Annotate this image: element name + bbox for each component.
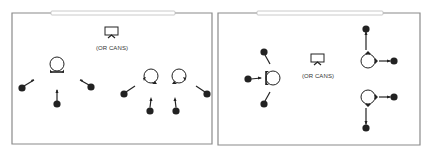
av-label: (OR CANS) — [96, 45, 128, 51]
speaker-circle — [361, 90, 375, 104]
listener — [146, 97, 153, 115]
listener — [244, 75, 262, 82]
listener — [120, 86, 135, 98]
speaker-group — [172, 69, 211, 115]
listener — [362, 25, 369, 50]
speaker-circle — [144, 69, 158, 83]
left-room-panel: (OR CANS) — [12, 11, 212, 144]
listener — [260, 48, 270, 64]
seating-diagram: (OR CANS) — [0, 0, 430, 153]
speaker-circle — [50, 57, 64, 71]
speaker-circle — [361, 54, 375, 68]
listener — [196, 86, 211, 98]
projector-icon — [105, 27, 118, 38]
speaker-group — [120, 69, 158, 115]
listener — [172, 97, 179, 115]
listener — [379, 57, 398, 64]
whiteboard — [257, 11, 383, 15]
right-room-panel: (OR CANS) — [218, 11, 420, 145]
speaker-group — [361, 25, 398, 68]
speaker-group — [244, 48, 280, 107]
listener — [260, 92, 270, 108]
speaker-group — [18, 57, 94, 108]
projector-icon — [311, 54, 324, 65]
listener — [53, 89, 60, 108]
listener — [80, 79, 95, 91]
speaker-circle — [172, 69, 186, 83]
av-label: (OR CANS) — [302, 73, 334, 79]
speaker-circle — [266, 71, 280, 85]
listener — [362, 108, 369, 132]
speaker-group — [361, 90, 398, 132]
listener — [18, 79, 34, 92]
whiteboard — [51, 11, 175, 15]
listener — [379, 93, 398, 100]
